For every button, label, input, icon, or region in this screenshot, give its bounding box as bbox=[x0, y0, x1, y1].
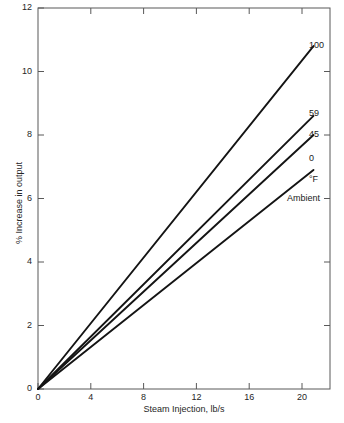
series-label-100: 100 bbox=[309, 40, 324, 50]
series-line-0 bbox=[38, 170, 313, 389]
y-axis-ticks bbox=[38, 8, 44, 389]
legend-units-label: °F bbox=[309, 174, 318, 184]
x-axis-ticks-top bbox=[91, 8, 302, 14]
y-tick-label-2: 2 bbox=[10, 320, 32, 330]
x-axis-label: Steam Injection, lb/s bbox=[38, 404, 330, 414]
x-axis-ticks bbox=[38, 383, 302, 389]
series-line-59 bbox=[38, 116, 313, 389]
x-tick-label-8: 8 bbox=[132, 392, 156, 402]
x-tick-label-4: 4 bbox=[79, 392, 103, 402]
x-tick-label-12: 12 bbox=[184, 392, 208, 402]
x-tick-label-20: 20 bbox=[290, 392, 314, 402]
y-tick-label-12: 12 bbox=[10, 2, 32, 12]
series-label-0: 0 bbox=[309, 153, 314, 163]
series-line-100 bbox=[38, 46, 313, 389]
x-tick-label-0: 0 bbox=[26, 392, 50, 402]
y-axis-ticks-right bbox=[324, 72, 330, 326]
x-tick-label-16: 16 bbox=[237, 392, 261, 402]
series-label-59: 59 bbox=[309, 108, 319, 118]
series-lines bbox=[38, 46, 313, 389]
y-axis-label: % Increase in output bbox=[14, 138, 24, 268]
series-line-45 bbox=[38, 135, 313, 389]
y-tick-label-10: 10 bbox=[10, 66, 32, 76]
plot-canvas bbox=[0, 0, 344, 423]
series-label-45: 45 bbox=[309, 129, 319, 139]
chart-figure: 0 2 4 6 8 10 12 0 4 8 12 16 20 % Increas… bbox=[0, 0, 344, 423]
legend-title-label: Ambient bbox=[287, 193, 320, 203]
